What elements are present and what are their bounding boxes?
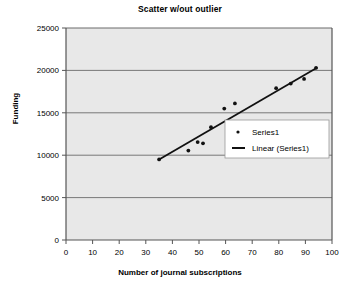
data-point (289, 82, 293, 86)
x-tick-label: 60 (221, 248, 230, 257)
x-tick-label: 100 (325, 248, 339, 257)
legend-marker-dot (236, 130, 239, 133)
x-tick-label: 50 (195, 248, 204, 257)
x-tick-label: 40 (168, 248, 177, 257)
x-tick-label: 70 (248, 248, 257, 257)
x-tick-label: 30 (141, 248, 150, 257)
x-axis-ticks: 0102030405060708090100 (64, 240, 339, 257)
x-tick-label: 90 (301, 248, 310, 257)
data-point (222, 107, 226, 111)
y-tick-label: 5000 (41, 194, 59, 203)
y-tick-label: 10000 (37, 151, 60, 160)
y-tick-label: 15000 (37, 109, 60, 118)
data-point (274, 86, 278, 90)
chart-legend: Series1 Linear (Series1) (225, 120, 329, 158)
chart-canvas: 0500010000150002000025000 01020304050607… (0, 0, 360, 289)
data-point (186, 149, 190, 153)
y-axis-ticks: 0500010000150002000025000 (37, 24, 66, 245)
x-tick-label: 20 (115, 248, 124, 257)
data-point (196, 140, 200, 144)
legend-label-series1: Series1 (252, 128, 280, 137)
y-tick-label: 20000 (37, 66, 60, 75)
x-tick-label: 80 (274, 248, 283, 257)
legend-label-linear-series1: Linear (Series1) (252, 144, 309, 153)
x-tick-label: 0 (64, 248, 69, 257)
data-point (233, 102, 237, 106)
data-point (157, 158, 161, 162)
data-point (302, 77, 306, 81)
x-tick-label: 10 (88, 248, 97, 257)
scatter-chart: Scatter w/out outlier Funding Number of … (0, 0, 360, 289)
data-point (314, 66, 318, 70)
y-tick-label: 0 (55, 236, 60, 245)
y-tick-label: 25000 (37, 24, 60, 33)
data-point (201, 141, 205, 145)
data-point (209, 125, 213, 129)
